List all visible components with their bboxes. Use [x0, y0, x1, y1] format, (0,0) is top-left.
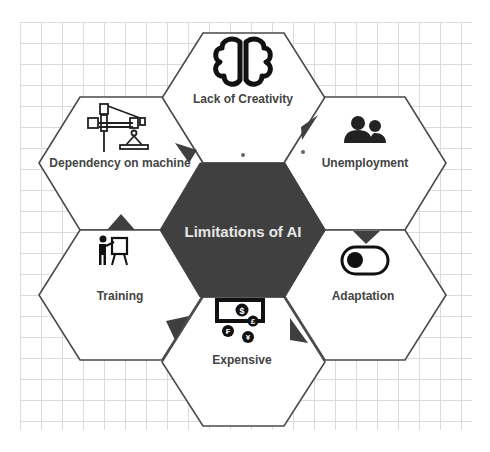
svg-text:$: $ [239, 306, 244, 316]
label-dependency-on-machine: Dependency on machine [49, 156, 190, 170]
label-lack-of-creativity: Lack of Creativity [193, 92, 293, 106]
center-title: Limitations of AI [185, 223, 302, 240]
label-training: Training [97, 289, 144, 303]
svg-text:£: £ [251, 317, 256, 326]
svg-text:₣: ₣ [226, 327, 231, 336]
accent-dot-2 [301, 150, 305, 154]
label-unemployment: Unemployment [322, 156, 409, 170]
accent-dot-1 [241, 153, 245, 157]
label-expensive: Expensive [212, 353, 271, 367]
svg-text:¥: ¥ [246, 333, 251, 342]
diagram-stage: $ £ ₣ ¥ Limitations of AI Lack of Creati… [0, 0, 490, 452]
label-adaptation: Adaptation [332, 289, 395, 303]
